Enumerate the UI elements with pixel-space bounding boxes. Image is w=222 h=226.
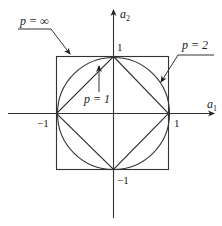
- label-p-infinity: p = ∞: [19, 14, 49, 28]
- tick-x-neg: −1: [37, 117, 49, 129]
- tick-y-neg: −1: [117, 174, 129, 186]
- unit-ball-diagram: p = ∞ p = 2 p = 1 a2 a1 1 −1 1 −1: [0, 0, 222, 226]
- label-p-1: p = 1: [83, 92, 110, 106]
- tick-x-pos: 1: [174, 117, 180, 129]
- tick-y-pos: 1: [117, 41, 123, 53]
- leader-p-infinity: [18, 29, 70, 54]
- label-p-2: p = 2: [181, 38, 208, 52]
- x-axis-label: a1: [207, 97, 217, 113]
- y-axis-label: a2: [120, 7, 130, 23]
